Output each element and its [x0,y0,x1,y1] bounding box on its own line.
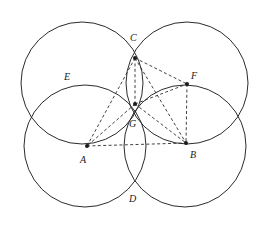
point-label-B: B [190,149,196,160]
vertex-dot-A [85,144,89,148]
point-label-C: C [130,32,137,43]
edge-A-B [87,143,186,146]
dashed-edges-layer [87,58,187,146]
vertex-dot-B [184,141,188,145]
point-label-D: D [128,193,137,204]
circle-top-left [21,22,143,144]
circle-bottom-right [124,85,246,207]
edge-G-B [135,104,186,143]
geometry-figure-svg: ABCDEFG [0,0,261,225]
point-label-F: F [190,70,198,81]
point-label-A: A [79,154,87,165]
geometry-figure-container: ABCDEFG [0,0,261,225]
point-label-G: G [129,118,136,129]
circles-layer [21,22,248,207]
edge-F-B [186,84,187,143]
vertex-dot-C [133,56,137,60]
point-labels-layer: ABCDEFG [63,32,198,204]
vertex-dot-G [133,102,137,106]
point-label-E: E [63,71,70,82]
vertex-dot-F [185,82,189,86]
